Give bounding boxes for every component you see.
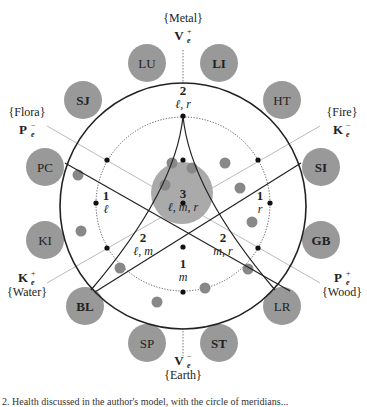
meridian-node-lu: LU	[128, 44, 166, 82]
meridian-node-sp: SP	[128, 324, 166, 362]
black-dot	[255, 157, 260, 162]
region-vars: m	[179, 270, 188, 284]
element-name: {Wood}	[322, 285, 362, 299]
element-name: {Metal}	[163, 11, 203, 25]
element-symbol: K	[18, 270, 29, 285]
region-vars: m, r	[213, 244, 233, 258]
region-vars: ℓ, r	[175, 97, 191, 111]
meridian-node-ki: KI	[26, 221, 64, 259]
region-label: 2ℓ, m	[133, 230, 153, 258]
element-symbol-sub: e	[187, 36, 191, 45]
element-symbol-sup: −	[346, 121, 351, 130]
grey-dot	[200, 283, 211, 294]
grey-dot	[152, 297, 163, 308]
meridian-node-label: SJ	[76, 93, 90, 108]
meridian-node-label: ST	[211, 336, 227, 351]
element-symbol-sup: +	[346, 269, 351, 278]
element-label-earth: {Earth}V−e	[164, 352, 202, 382]
element-symbol-sub: e	[346, 130, 350, 139]
element-symbol: P	[19, 122, 27, 137]
region-vars: ℓ, m	[133, 244, 153, 258]
element-label-flora: {Flora}P−e	[9, 105, 46, 139]
region-vars: ℓ	[104, 202, 109, 216]
black-dot	[267, 200, 272, 205]
element-symbol: P	[334, 270, 342, 285]
region-count: 1	[180, 256, 187, 271]
meridian-node-label: KI	[38, 233, 52, 248]
grey-dot	[115, 263, 126, 274]
meridian-node-label: PC	[37, 160, 53, 175]
element-symbol: V	[174, 353, 184, 368]
black-dot	[180, 244, 185, 249]
meridian-node-label: HT	[273, 93, 290, 108]
region-label: 1r	[257, 188, 264, 216]
region-count: 2	[180, 83, 187, 98]
figure-caption: 2. Health discussed in the author's mode…	[2, 396, 367, 407]
grey-dot	[247, 217, 258, 228]
region-label: 2m, r	[213, 230, 233, 258]
element-name: {Flora}	[9, 105, 46, 119]
element-symbol-sub: e	[31, 130, 35, 139]
meridian-element-diagram: LULIHTSIGBLRSTSPBLKIPCSJ 2ℓ, r3ℓ, m, r1ℓ…	[0, 0, 367, 407]
meridian-node-label: LR	[274, 299, 291, 314]
element-symbol-sup: +	[31, 269, 36, 278]
element-symbol: K	[333, 122, 344, 137]
element-label-fire: {Fire}K−e	[327, 105, 358, 139]
grey-dot	[160, 180, 171, 191]
black-dot	[104, 157, 109, 162]
element-symbol-sub: e	[187, 361, 191, 370]
element-symbol-sub: e	[31, 278, 35, 287]
grey-dot	[235, 183, 246, 194]
element-symbol-sup: +	[187, 27, 192, 36]
element-label-metal: {Metal}V+e	[163, 11, 203, 45]
element-name: {Water}	[7, 285, 47, 299]
region-label: 1m	[179, 256, 188, 284]
grey-dot	[73, 170, 84, 181]
black-dot	[180, 113, 185, 118]
region-count: 1	[257, 188, 264, 203]
meridian-node-lr: LR	[263, 287, 301, 325]
element-symbol: V	[174, 28, 184, 43]
element-name: {Fire}	[327, 105, 358, 119]
meridian-node-pc: PC	[26, 148, 64, 186]
black-dot	[180, 157, 185, 162]
region-count: 2	[140, 230, 147, 245]
element-symbol-sup: −	[187, 352, 192, 361]
grey-dot	[220, 158, 231, 169]
element-label-water: {Water}K+e	[7, 269, 47, 299]
region-count: 1	[103, 188, 110, 203]
element-symbol-sup: −	[31, 121, 36, 130]
black-dot	[93, 200, 98, 205]
region-count: 2	[220, 230, 227, 245]
meridian-node-label: BL	[76, 299, 94, 314]
region-label: 2ℓ, r	[175, 83, 191, 111]
meridian-node-label: SP	[140, 336, 154, 351]
region-count: 3	[180, 186, 187, 201]
meridian-node-sj: SJ	[64, 81, 102, 119]
element-name: {Earth}	[164, 368, 202, 382]
meridian-node-si: SI	[302, 148, 340, 186]
black-dot	[255, 245, 260, 250]
region-label: 1ℓ	[103, 188, 110, 216]
element-label-wood: {Wood}P+e	[322, 269, 362, 299]
meridian-node-st: ST	[200, 324, 238, 362]
region-vars: ℓ, m, r	[168, 200, 199, 214]
meridian-node-gb: GB	[302, 221, 340, 259]
meridian-node-label: GB	[312, 233, 331, 248]
black-dot	[180, 289, 185, 294]
meridian-node-label: LI	[212, 56, 226, 71]
meridian-node-li: LI	[200, 44, 238, 82]
meridian-node-ht: HT	[263, 81, 301, 119]
region-vars: r	[258, 202, 263, 216]
element-symbol-sub: e	[346, 278, 350, 287]
black-dot	[104, 245, 109, 250]
meridian-node-label: SI	[315, 160, 327, 175]
meridian-node-label: LU	[138, 56, 156, 71]
meridian-node-bl: BL	[66, 287, 104, 325]
grey-dot	[76, 226, 87, 237]
